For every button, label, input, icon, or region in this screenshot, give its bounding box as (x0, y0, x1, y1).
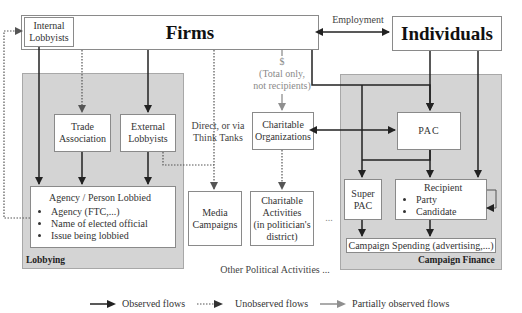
super-pac-line2: PAC (354, 200, 373, 212)
super-pac-box: Super PAC (344, 179, 382, 220)
dollar-note-label-overlay: $ (Total only, not recipients) (242, 56, 322, 92)
ca-line3: (in politician's (253, 219, 310, 231)
recipient-item: Party (416, 194, 457, 206)
charitable-org-line1: Charitable (262, 119, 304, 131)
recipient-title: Recipient (424, 182, 462, 194)
agency-person-list: Agency (FTC,...) Name of elected officia… (37, 206, 148, 242)
direct-line2: Think Tanks (188, 132, 248, 144)
recipient-item: Candidate (416, 206, 457, 218)
agency-item: Name of elected official (51, 218, 148, 230)
trade-association-line2: Association (59, 133, 106, 145)
other-political-label: Other Political Activities ... (210, 264, 340, 276)
lobbying-label: Lobbying (26, 255, 65, 265)
charitable-org-line2: Organizations (255, 131, 311, 143)
direct-think-tanks-label: Direct, or via Think Tanks (188, 120, 248, 144)
pac-label: PAC (418, 125, 440, 137)
firms-label: Firms (166, 27, 215, 39)
dollar-line1: $ (242, 56, 322, 68)
legend-partial: Partially observed flows (352, 298, 449, 309)
employment-label: Employment (328, 14, 388, 26)
agency-item: Agency (FTC,...) (51, 206, 148, 218)
direct-line1: Direct, or via (188, 120, 248, 132)
internal-lobbyists-line1: Internal (33, 20, 64, 32)
individuals-box: Individuals (392, 16, 502, 51)
ca-line2: Activities (263, 207, 302, 219)
dollar-line3: not recipients) (242, 80, 322, 92)
media-line2: Campaigns (193, 219, 238, 231)
agency-person-title: Agency / Person Lobbied (49, 192, 151, 204)
media-line1: Media (202, 207, 228, 219)
external-lobbyists-line1: External (131, 121, 165, 133)
pac-box: PAC (397, 112, 461, 150)
charitable-organizations-box: Charitable Organizations (252, 112, 314, 150)
trade-association-box: Trade Association (54, 114, 111, 152)
legend-unobserved: Unobserved flows (235, 298, 308, 309)
grey-arrow-icon (320, 300, 346, 308)
dollar-line2: (Total only, (242, 68, 322, 80)
agency-person-lobbied-box: Agency / Person Lobbied Agency (FTC,...)… (30, 186, 176, 248)
external-lobbyists-line2: Lobbyists (128, 133, 167, 145)
legend-observed: Observed flows (122, 298, 185, 309)
campaign-spending-label: Campaign Spending (advertising,...) (349, 240, 494, 252)
super-pac-line1: Super (351, 188, 374, 200)
individuals-label: Individuals (401, 28, 493, 40)
legend: Observed flows Unobserved flows Partiall… (90, 298, 449, 309)
internal-lobbyists-box: Internal Lobbyists (24, 17, 74, 47)
agency-item: Issue being lobbied (51, 230, 148, 242)
external-lobbyists-box: External Lobbyists (120, 114, 176, 152)
charitable-activities-box: Charitable Activities (in politician's d… (250, 191, 314, 246)
solid-arrow-icon (90, 300, 116, 308)
campaign-spending-box: Campaign Spending (advertising,...) (346, 238, 496, 253)
recipient-list: Party Candidate (402, 194, 457, 218)
ca-line4: district) (266, 231, 297, 243)
campaign-finance-label: Campaign Finance (418, 255, 495, 265)
ca-line1: Charitable (261, 195, 303, 207)
ellipsis-label: ... (322, 212, 336, 224)
recipient-box: Recipient Party Candidate (395, 179, 487, 220)
trade-association-line1: Trade (71, 121, 94, 133)
media-campaigns-box: Media Campaigns (188, 191, 242, 246)
internal-lobbyists-line2: Lobbyists (29, 32, 68, 44)
dotted-arrow-icon (197, 300, 223, 308)
